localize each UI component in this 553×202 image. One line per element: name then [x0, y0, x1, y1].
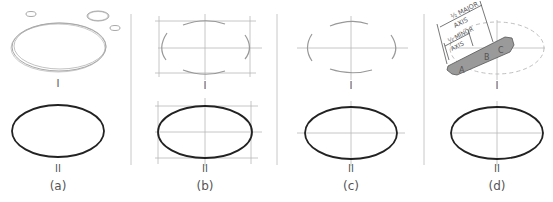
panel-d-step2-label: II	[494, 163, 500, 174]
panel-a-step1-label: I	[57, 78, 60, 89]
trammel-point-b: B	[484, 53, 490, 62]
panel-c-caption: (c)	[343, 179, 359, 193]
ellipse-sketching-diagram: I II (a) I II (b)	[0, 0, 553, 202]
panel-d-step2-axes	[450, 101, 544, 166]
panel-b-step2-label: II	[202, 163, 208, 174]
trammel-point-a: A	[459, 66, 465, 75]
panel-c-step2-label: II	[348, 163, 354, 174]
panel-c-step1-axes	[297, 16, 408, 80]
panel-c-step1-label: I	[350, 80, 353, 91]
panel-d-step1-label: I	[496, 80, 499, 91]
panel-a-step2-label: II	[55, 163, 61, 174]
panel-c: I II (c)	[297, 16, 408, 193]
trammel-point-c: C	[498, 46, 504, 55]
panel-b-step2-construction	[155, 98, 262, 166]
panel-a-step2-ellipse	[12, 105, 104, 157]
panel-a-caption: (a)	[50, 179, 67, 193]
panel-a: I II (a)	[11, 11, 120, 193]
panel-b-caption: (b)	[197, 179, 214, 193]
panel-c-step1-arcs	[308, 21, 396, 72]
panel-d: ½ MAJOR AXIS ½ MINOR AXIS A B C I II (d)	[437, 0, 545, 193]
panel-b-step1-arcs	[162, 21, 250, 75]
panel-c-step2-axes	[297, 101, 405, 166]
panel-d-caption: (d)	[489, 179, 506, 193]
panel-b-step1-construction	[155, 14, 262, 80]
panel-b: I II (b)	[155, 14, 262, 193]
panel-a-step1-sketch	[11, 11, 120, 72]
panel-b-step1-label: I	[204, 80, 207, 91]
